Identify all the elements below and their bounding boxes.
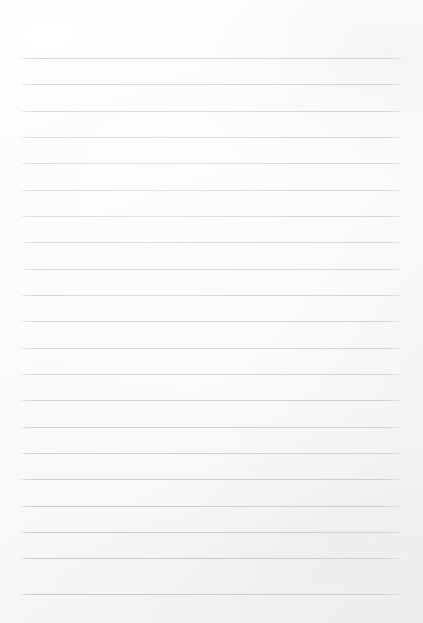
rule-line (19, 506, 403, 507)
rule-line (19, 295, 403, 296)
rule-line (19, 400, 403, 401)
rule-line (19, 84, 403, 85)
rule-line (19, 242, 403, 243)
rule-line (19, 479, 403, 480)
rule-line (19, 374, 403, 375)
rule-line (19, 58, 403, 59)
ruled-paper-page (0, 0, 423, 623)
rule-line (19, 532, 403, 533)
rule-line (19, 111, 403, 112)
rule-line (19, 269, 403, 270)
rule-line (19, 216, 403, 217)
rule-line (19, 558, 403, 559)
rule-line (19, 427, 403, 428)
rule-line (19, 321, 403, 322)
rule-line (19, 453, 403, 454)
rule-line (19, 163, 403, 164)
rule-line (19, 137, 403, 138)
rule-line (19, 190, 403, 191)
rule-line (19, 348, 403, 349)
rule-line (19, 594, 403, 595)
ruled-lines-group (0, 0, 423, 623)
